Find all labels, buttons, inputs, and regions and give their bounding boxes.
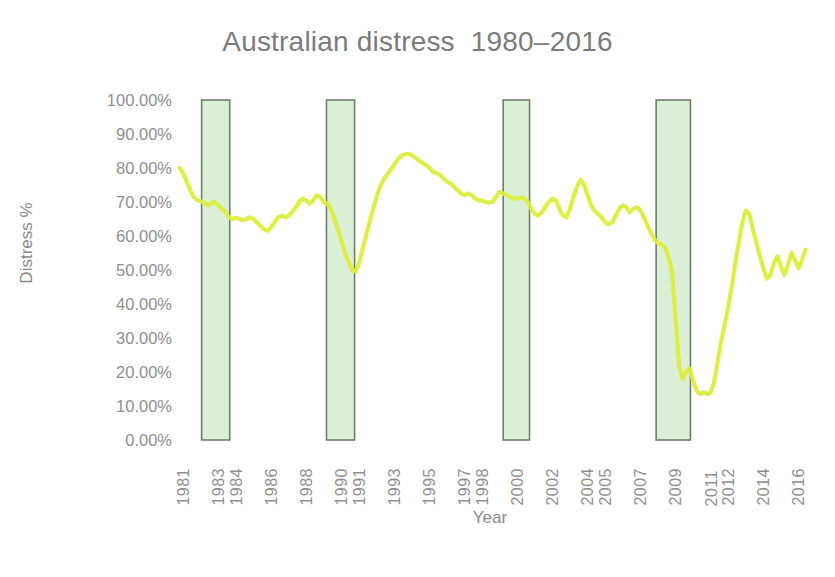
y-tick-label: 90.00% [60, 126, 172, 143]
x-tick-label: 2014 [756, 468, 772, 506]
x-tick-label: 1981 [176, 468, 192, 506]
x-tick-label: 2004 [580, 468, 596, 506]
plot-area [177, 100, 810, 440]
x-tick-label: 1998 [475, 468, 491, 506]
x-tick-label: 1983 [211, 468, 227, 506]
y-tick-label: 30.00% [60, 330, 172, 347]
y-tick-label: 20.00% [60, 364, 172, 381]
plot-svg [177, 100, 810, 440]
x-tick-label: 2005 [598, 468, 614, 506]
recession-band-3 [503, 100, 529, 440]
x-tick-label: 2016 [791, 468, 807, 506]
y-tick-label: 80.00% [60, 160, 172, 177]
x-tick-label: 1986 [264, 468, 280, 506]
series-line-distress [180, 154, 806, 394]
x-tick-label: 2012 [721, 468, 737, 506]
y-tick-label: 10.00% [60, 398, 172, 415]
x-tick-label: 2000 [510, 468, 526, 506]
x-tick-label: 2002 [545, 468, 561, 506]
y-tick-label: 60.00% [60, 228, 172, 245]
x-tick-label: 1990 [334, 468, 350, 506]
y-tick-label: 40.00% [60, 296, 172, 313]
chart-title: Australian distress 1980–2016 [0, 26, 835, 58]
x-tick-label: 1997 [457, 468, 473, 506]
x-tick-label: 1984 [229, 468, 245, 506]
y-tick-label: 70.00% [60, 194, 172, 211]
recession-bands-group [202, 100, 691, 440]
x-tick-label: 1988 [299, 468, 315, 506]
y-axis-tick-labels: 100.00%90.00%80.00%70.00%60.00%50.00%40.… [60, 95, 172, 440]
x-tick-label: 1993 [387, 468, 403, 506]
y-tick-label: 50.00% [60, 262, 172, 279]
chart-container: Australian distress 1980–2016 Distress %… [0, 0, 835, 577]
y-axis-title: Distress % [17, 173, 37, 313]
y-tick-label: 100.00% [60, 92, 172, 109]
x-axis-tick-labels: 1981198319841986198819901991199319951997… [0, 444, 835, 506]
x-tick-label: 1995 [422, 468, 438, 506]
x-tick-label: 2007 [633, 468, 649, 506]
x-tick-label: 1991 [352, 468, 368, 506]
x-tick-label: 2009 [668, 468, 684, 506]
recession-band-1 [202, 100, 230, 440]
x-axis-title: Year [170, 508, 810, 528]
data-series-group [180, 154, 806, 394]
x-tick-label: 2011 [704, 470, 720, 506]
